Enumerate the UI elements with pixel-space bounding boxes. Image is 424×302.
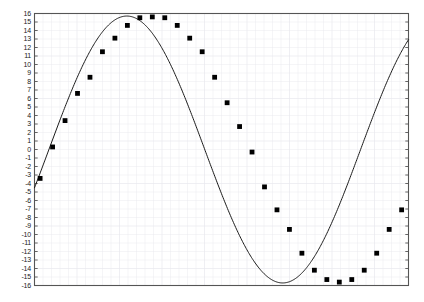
data-point-marker <box>137 15 142 20</box>
data-point-marker <box>312 268 317 273</box>
data-point-marker <box>212 75 217 80</box>
data-point-marker <box>162 15 167 20</box>
data-point-marker <box>75 91 80 96</box>
data-point-marker <box>349 277 354 282</box>
data-point-marker <box>88 75 93 80</box>
data-point-marker <box>300 251 305 256</box>
data-point-marker <box>324 277 329 282</box>
data-point-marker <box>374 251 379 256</box>
data-point-marker <box>50 145 55 150</box>
data-point-marker <box>175 23 180 28</box>
grid-lines <box>35 14 409 286</box>
data-point-marker <box>150 15 155 20</box>
data-point-marker <box>387 227 392 232</box>
data-point-marker <box>200 49 205 54</box>
data-point-marker <box>275 207 280 212</box>
data-point-marker <box>38 176 43 181</box>
chart-container: 161514131211109876543210-1-2-3-4-5-6-7-8… <box>0 0 424 302</box>
data-point-marker <box>113 36 118 41</box>
data-point-marker <box>287 227 292 232</box>
data-point-marker <box>125 23 130 28</box>
data-point-marker <box>187 36 192 41</box>
data-point-marker <box>362 268 367 273</box>
data-point-marker <box>225 100 230 105</box>
data-point-marker <box>100 49 105 54</box>
data-point-marker <box>250 150 255 155</box>
data-point-marker <box>63 118 68 123</box>
data-point-marker <box>399 207 404 212</box>
data-point-marker <box>337 280 342 285</box>
plot-area <box>0 0 424 302</box>
data-point-marker <box>262 185 267 190</box>
data-point-marker <box>237 124 242 129</box>
